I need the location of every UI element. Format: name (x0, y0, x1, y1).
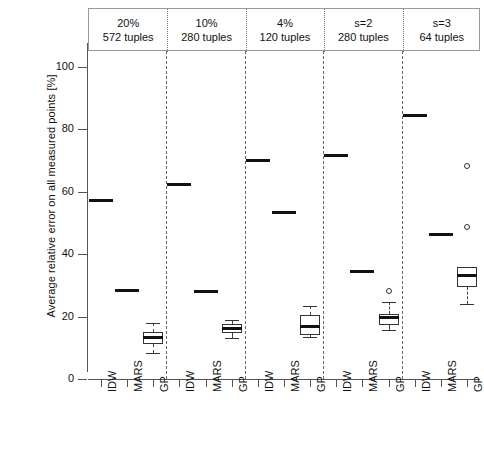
outlier-point (464, 224, 470, 230)
panel-title-line2: 120 tuples (260, 31, 311, 45)
y-tick-mark (78, 254, 87, 255)
x-tick-mark (127, 380, 128, 387)
x-tick-mark (441, 380, 442, 387)
panel-title-strip: 20%572 tuples10%280 tuples4%120 tupless=… (88, 8, 480, 51)
panel-title-line2: 64 tuples (419, 31, 464, 45)
single-value-mark (89, 199, 113, 202)
whisker-cap-lower (460, 304, 474, 305)
panel-title-line1: 4% (277, 17, 293, 31)
median-line (300, 325, 320, 328)
y-tick-mark (78, 317, 87, 318)
panel-strip-divider (403, 9, 404, 52)
y-tick-label: 100 (44, 60, 74, 72)
panel-strip-divider (246, 9, 247, 52)
single-value-mark (350, 270, 374, 273)
whisker-upper (153, 323, 154, 332)
whisker-cap-upper (225, 320, 239, 321)
y-tick-mark (78, 379, 87, 380)
whisker-lower (467, 287, 468, 304)
whisker-upper (310, 306, 311, 315)
y-tick-label: 40 (44, 247, 74, 259)
y-tick-label: 0 (44, 372, 74, 384)
panel-title-line1: 20% (117, 17, 139, 31)
single-value-mark (246, 159, 270, 162)
whisker-lower (153, 344, 154, 353)
x-tick-mark (415, 380, 416, 387)
panel-title: s=2280 tuples (324, 9, 402, 52)
median-line (457, 274, 477, 277)
x-tick-mark (362, 380, 363, 387)
panel-strip-divider (324, 9, 325, 52)
median-line (222, 327, 242, 330)
panel-divider (245, 51, 246, 379)
y-tick-mark (78, 67, 87, 68)
x-tick-mark (389, 380, 390, 387)
panel-title-line1: s=3 (433, 17, 451, 31)
median-line (379, 316, 399, 319)
x-tick-mark (153, 380, 154, 387)
panel-divider (323, 51, 324, 379)
single-value-mark (115, 289, 139, 292)
panel-title-line1: s=2 (354, 17, 372, 31)
single-value-mark (403, 114, 427, 117)
x-tick-mark (232, 380, 233, 387)
x-tick-mark (336, 380, 337, 387)
median-line (143, 336, 163, 339)
whisker-cap-lower (225, 338, 239, 339)
y-tick-mark (78, 129, 87, 130)
single-value-mark (194, 290, 218, 293)
panel-strip-divider (167, 9, 168, 52)
x-tick-mark (101, 380, 102, 387)
panel-title-line2: 572 tuples (103, 31, 154, 45)
single-value-mark (429, 233, 453, 236)
outlier-point (386, 288, 392, 294)
x-tick-mark (179, 380, 180, 387)
plot-area: 20%572 tuples10%280 tuples4%120 tupless=… (88, 8, 480, 379)
whisker-cap-upper (146, 323, 160, 324)
single-value-mark (167, 183, 191, 186)
whisker-cap-lower (303, 337, 317, 338)
x-tick-mark (258, 380, 259, 387)
whisker-cap-lower (382, 330, 396, 331)
panel-divider (402, 51, 403, 379)
x-tick-mark (284, 380, 285, 387)
x-tick-mark (310, 380, 311, 387)
panel-title-line2: 280 tuples (338, 31, 389, 45)
x-tick-mark (206, 380, 207, 387)
single-value-mark (324, 154, 348, 157)
panel-title: 10%280 tuples (167, 9, 245, 52)
x-tick-mark (467, 380, 468, 387)
panel-title-line2: 280 tuples (181, 31, 232, 45)
panel-divider (166, 51, 167, 379)
y-tick-label: 60 (44, 185, 74, 197)
panel-title-line1: 10% (196, 17, 218, 31)
y-tick-mark (78, 192, 87, 193)
whisker-cap-upper (303, 306, 317, 307)
single-value-mark (272, 211, 296, 214)
whisker-upper (389, 302, 390, 314)
panel-data-area (88, 51, 480, 379)
outlier-point (464, 163, 470, 169)
y-tick-label: 20 (44, 310, 74, 322)
panel-title: s=364 tuples (403, 9, 481, 52)
whisker-cap-upper (382, 302, 396, 303)
y-tick-label: 80 (44, 122, 74, 134)
whisker-cap-lower (146, 353, 160, 354)
panel-title: 20%572 tuples (89, 9, 167, 52)
panel-title: 4%120 tuples (246, 9, 324, 52)
